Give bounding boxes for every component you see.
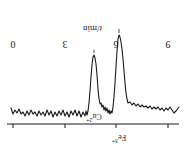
- x-axis-title: t/min: [0, 24, 185, 34]
- peak-label-charge: 2+: [86, 117, 92, 123]
- rotated-figure-content: t/min 9630 Fe3+Cu2+: [0, 0, 185, 163]
- chromatogram-figure: t/min 9630 Fe3+Cu2+: [0, 0, 185, 163]
- signal-trace: [11, 35, 179, 117]
- x-axis-tick-label-6: 6: [114, 39, 119, 50]
- x-axis-title-separator: /: [97, 24, 100, 34]
- peak-label-charge: 3+: [112, 138, 118, 144]
- plot-area: t/min 9630 Fe3+Cu2+: [0, 0, 185, 163]
- x-axis-title-unit: min: [83, 24, 97, 34]
- x-axis-ticks: [13, 124, 168, 128]
- peak-label-element: Fe: [118, 133, 126, 142]
- peak-label-element: Cu: [93, 112, 102, 121]
- x-axis-tick-label-3: 3: [63, 39, 68, 50]
- x-axis-tick-label-9: 9: [166, 39, 171, 50]
- peak-label-Cu: Cu2+: [86, 112, 102, 123]
- peak-label-Fe: Fe3+: [112, 133, 126, 144]
- x-axis-tick-label-0: 0: [11, 39, 16, 50]
